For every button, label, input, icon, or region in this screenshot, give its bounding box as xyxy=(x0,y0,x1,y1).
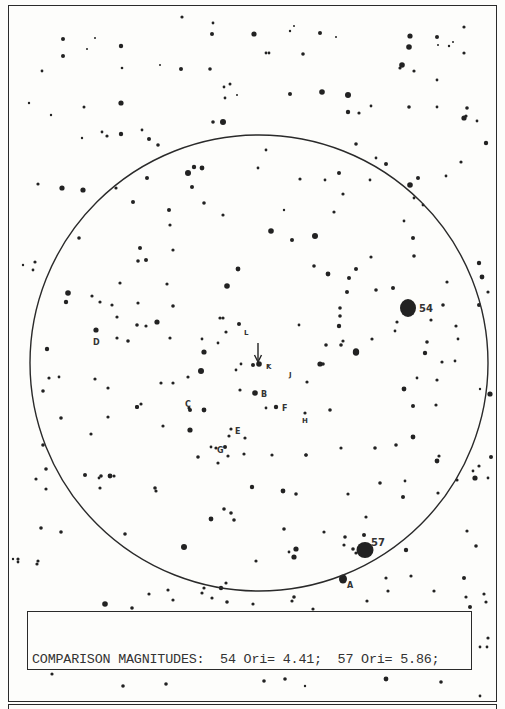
star-label-E: E xyxy=(235,427,240,436)
star xyxy=(254,559,257,562)
star xyxy=(346,492,349,495)
star xyxy=(145,176,149,180)
star xyxy=(135,405,139,409)
star xyxy=(454,324,457,327)
star xyxy=(86,48,88,50)
star xyxy=(416,176,420,180)
star xyxy=(229,511,233,515)
star xyxy=(136,259,140,263)
star xyxy=(305,380,308,383)
star xyxy=(180,15,183,18)
legend-line-1: COMPARISON MAGNITUDES: 54 Ori= 4.41; 57 … xyxy=(32,651,467,670)
star xyxy=(216,461,219,464)
star xyxy=(404,548,408,552)
star xyxy=(288,551,291,554)
star xyxy=(369,255,372,258)
star xyxy=(101,131,104,134)
star xyxy=(403,220,406,223)
star xyxy=(165,282,168,285)
star xyxy=(339,343,343,347)
star xyxy=(236,267,241,272)
star xyxy=(171,598,174,601)
star xyxy=(436,491,439,494)
star xyxy=(251,363,255,367)
star xyxy=(283,209,285,211)
star-label-K: K xyxy=(266,363,272,371)
star xyxy=(12,558,14,560)
star xyxy=(251,602,254,605)
star xyxy=(159,381,162,384)
star xyxy=(454,360,457,363)
star xyxy=(479,646,482,649)
star xyxy=(304,453,307,456)
star xyxy=(136,301,139,304)
star xyxy=(457,338,460,341)
star xyxy=(108,474,113,479)
star xyxy=(347,276,351,280)
star xyxy=(351,547,355,551)
star xyxy=(412,69,415,72)
star-label-C: C xyxy=(185,400,191,409)
star xyxy=(130,606,134,610)
star xyxy=(59,416,63,420)
bright-star-54 xyxy=(400,299,416,317)
star xyxy=(407,182,413,188)
star-label-H: H xyxy=(302,417,308,425)
star xyxy=(440,360,443,363)
star xyxy=(186,375,189,378)
star xyxy=(318,31,322,35)
star xyxy=(319,89,325,95)
star xyxy=(81,137,83,139)
star xyxy=(159,64,161,66)
star xyxy=(365,599,368,602)
star-label-J: J xyxy=(288,371,292,379)
star xyxy=(77,236,81,240)
star xyxy=(386,589,389,592)
star xyxy=(16,557,19,560)
star xyxy=(198,368,204,374)
star xyxy=(486,636,489,639)
star xyxy=(210,596,213,599)
star xyxy=(282,527,286,531)
star xyxy=(434,403,437,406)
star xyxy=(459,160,462,163)
star xyxy=(354,142,358,146)
star xyxy=(212,22,215,25)
star xyxy=(489,455,493,459)
star xyxy=(412,254,416,258)
star xyxy=(89,432,92,435)
star xyxy=(202,201,206,205)
star xyxy=(486,646,489,649)
star xyxy=(480,275,485,280)
star xyxy=(303,411,306,414)
star xyxy=(445,280,448,283)
star xyxy=(445,175,448,178)
star xyxy=(374,288,378,292)
star xyxy=(171,304,175,308)
star xyxy=(156,143,160,147)
star xyxy=(341,192,344,195)
star xyxy=(138,246,142,250)
star xyxy=(357,111,360,114)
star xyxy=(479,388,481,390)
star xyxy=(181,544,187,550)
star xyxy=(474,544,478,548)
star xyxy=(115,336,118,339)
star xyxy=(342,543,345,546)
star xyxy=(436,106,439,109)
star xyxy=(289,30,291,32)
star xyxy=(208,67,212,71)
star-label-A: A xyxy=(347,581,354,590)
star xyxy=(105,134,108,137)
star xyxy=(326,272,331,277)
star-label-B: B xyxy=(261,390,267,399)
star xyxy=(34,477,37,480)
star xyxy=(240,363,243,366)
star xyxy=(119,132,123,136)
star xyxy=(452,41,454,43)
star xyxy=(312,264,316,268)
star xyxy=(337,171,341,175)
star xyxy=(468,605,472,609)
star xyxy=(338,306,342,310)
star xyxy=(210,446,213,449)
